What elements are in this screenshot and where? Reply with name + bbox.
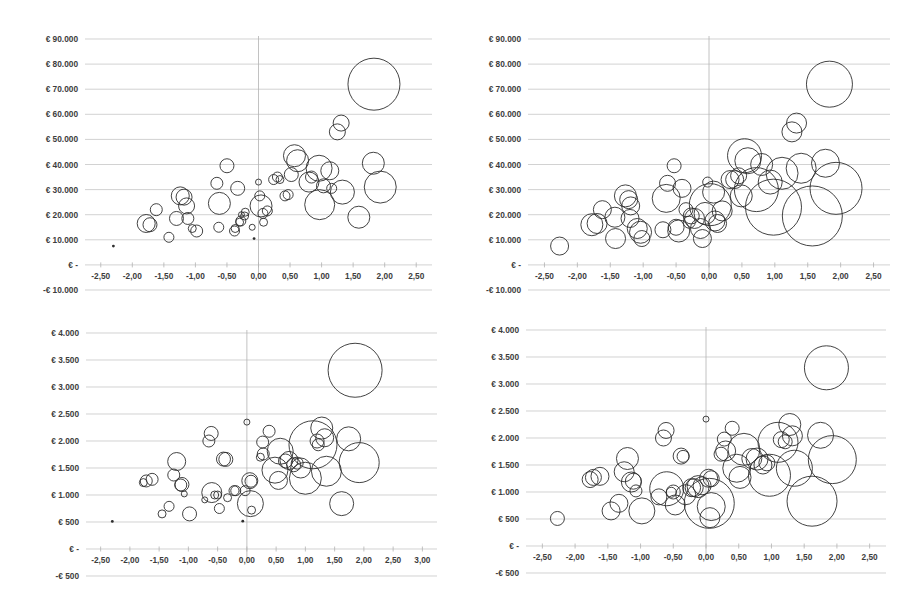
y-axis-tick-label: € 500 [58, 517, 79, 527]
data-point-bubble [773, 432, 789, 448]
data-point-bubble [214, 222, 224, 232]
x-axis-tick-label: 2,50 [408, 271, 425, 281]
data-point-bubble [150, 204, 162, 216]
data-point-dot [253, 237, 256, 240]
data-point-bubble [276, 176, 284, 184]
data-point-bubble [263, 425, 275, 437]
data-point-bubble [746, 179, 802, 235]
data-point-bubble [610, 494, 628, 512]
x-axis-tick-label: 0,00 [239, 555, 256, 565]
data-point-bubble [602, 502, 620, 520]
x-axis-tick-label: -1,00 [179, 555, 198, 565]
data-point-bubble [176, 189, 192, 205]
chart-panel-bottom-right: € 4.000€ 3.500€ 3.000€ 2.500€ 2.000€ 1.5… [450, 305, 901, 607]
data-point-bubble [348, 58, 400, 110]
y-axis-tick-label: € 1.500 [51, 463, 79, 473]
y-axis-tick-label: € - [511, 260, 521, 270]
data-point-bubble [703, 181, 725, 203]
data-point-bubble [703, 177, 713, 187]
data-point-bubble [337, 427, 361, 451]
y-axis-tick-label: € 20.000 [46, 210, 79, 220]
data-point-bubble [328, 343, 382, 397]
y-axis-tick-label: € 3.500 [51, 355, 79, 365]
data-point-bubble [810, 162, 862, 214]
data-point-bubble [269, 471, 287, 489]
y-axis-tick-label: € 50.000 [46, 134, 79, 144]
x-axis-tick-label: -1,50 [154, 271, 173, 281]
data-point-bubble [716, 441, 736, 461]
data-point-bubble [208, 192, 230, 214]
data-point-bubble [606, 229, 626, 249]
data-point-bubble [311, 456, 341, 486]
data-point-bubble [248, 506, 256, 514]
data-point-bubble [181, 491, 187, 497]
y-axis-tick-label: € 90.000 [46, 34, 79, 44]
data-point-bubble [330, 180, 354, 204]
x-axis-tick-label: -2,00 [566, 552, 585, 562]
x-axis-tick-label: 2,00 [829, 552, 846, 562]
x-axis-tick-label: 1,50 [345, 271, 362, 281]
y-axis-tick-label: € - [509, 541, 519, 551]
data-point-bubble [164, 501, 174, 511]
data-point-bubble [231, 181, 245, 195]
y-axis-tick-label: € 10.000 [46, 235, 79, 245]
data-point-bubble [278, 454, 292, 468]
y-axis-tick-label: € 4.000 [491, 325, 519, 335]
y-axis-tick-label: € 20.000 [489, 210, 522, 220]
data-point-bubble [709, 214, 727, 232]
y-axis-tick-label: € 3.500 [491, 352, 519, 362]
y-axis-tick-label: € 30.000 [489, 185, 522, 195]
data-point-bubble [683, 208, 699, 224]
x-axis-tick-label: -2,50 [91, 555, 110, 565]
y-axis-tick-label: € 90.000 [489, 34, 522, 44]
x-axis-tick-label: 1,00 [297, 555, 314, 565]
x-axis-tick-label: 0,50 [734, 271, 751, 281]
y-axis-tick-label: € 2.500 [51, 409, 79, 419]
data-point-bubble [339, 443, 379, 483]
y-axis-tick-label: € 50.000 [489, 134, 522, 144]
y-axis-tick-label: € 2.000 [51, 436, 79, 446]
chart-canvas-bottom-left: € 4.000€ 3.500€ 3.000€ 2.500€ 2.000€ 1.5… [0, 305, 450, 607]
x-axis-tick-label: -1,00 [631, 552, 650, 562]
data-point-bubble [808, 436, 856, 484]
x-axis-tick-label: -0,50 [217, 271, 236, 281]
y-axis-tick-label: € 30.000 [46, 185, 79, 195]
data-point-bubble [257, 436, 269, 448]
x-axis-tick-label: -2,00 [123, 271, 142, 281]
x-axis-tick-label: -1,00 [186, 271, 205, 281]
x-axis-tick-label: -2,00 [120, 555, 139, 565]
x-axis-tick-label: -0,50 [208, 555, 227, 565]
x-axis-tick-label: -1,50 [598, 552, 617, 562]
data-point-bubble [289, 462, 321, 494]
x-axis-tick-label: -2,00 [568, 271, 587, 281]
x-axis-tick-label: 1,00 [314, 271, 331, 281]
y-axis-tick-label: -€ 500 [495, 568, 519, 578]
data-point-bubble [725, 421, 739, 435]
chart-panel-top-right: € 90.000€ 80.000€ 70.000€ 60.000€ 50.000… [450, 0, 901, 305]
y-axis-tick-label: € 70.000 [46, 84, 79, 94]
data-point-bubble [329, 124, 345, 140]
y-axis-tick-label: € 60.000 [46, 109, 79, 119]
x-axis-tick-label: -1,50 [150, 555, 169, 565]
y-axis-tick-label: € 500 [498, 514, 519, 524]
x-axis-tick-label: -0,50 [664, 552, 683, 562]
data-point-bubble [191, 225, 203, 237]
data-point-bubble [806, 61, 852, 107]
data-point-bubble [211, 177, 223, 189]
data-point-bubble [697, 493, 725, 521]
chart-panel-top-left: € 90.000€ 80.000€ 70.000€ 60.000€ 50.000… [0, 0, 450, 305]
data-point-bubble [735, 148, 761, 174]
x-axis-tick-label: 0,50 [731, 552, 748, 562]
data-point-bubble [776, 450, 812, 486]
data-point-bubble [652, 184, 680, 212]
y-axis-tick-label: € - [69, 544, 79, 554]
data-point-dot [241, 520, 244, 523]
data-point-bubble [665, 495, 685, 515]
y-axis-tick-label: € 4.000 [51, 328, 79, 338]
data-point-bubble [327, 183, 337, 193]
y-axis-tick-label: € 1.000 [51, 490, 79, 500]
x-axis-tick-label: 0,50 [268, 555, 285, 565]
x-axis-tick-label: -0,50 [667, 271, 686, 281]
y-axis-tick-label: € 2.500 [491, 406, 519, 416]
chart-canvas-top-left: € 90.000€ 80.000€ 70.000€ 60.000€ 50.000… [0, 0, 450, 305]
